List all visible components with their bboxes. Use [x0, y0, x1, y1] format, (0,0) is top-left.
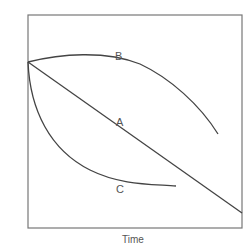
survival-curves-chart: B A C Log. no. of surviving organisms Ti…: [0, 0, 252, 251]
curve-c-line: [28, 62, 176, 186]
curve-a-label: A: [116, 116, 124, 128]
curve-c-label: C: [116, 183, 124, 195]
curve-b-label: B: [115, 50, 122, 62]
plot-area: B A C: [0, 0, 252, 251]
curve-a-line: [28, 62, 242, 213]
x-axis-label: Time: [0, 234, 252, 245]
